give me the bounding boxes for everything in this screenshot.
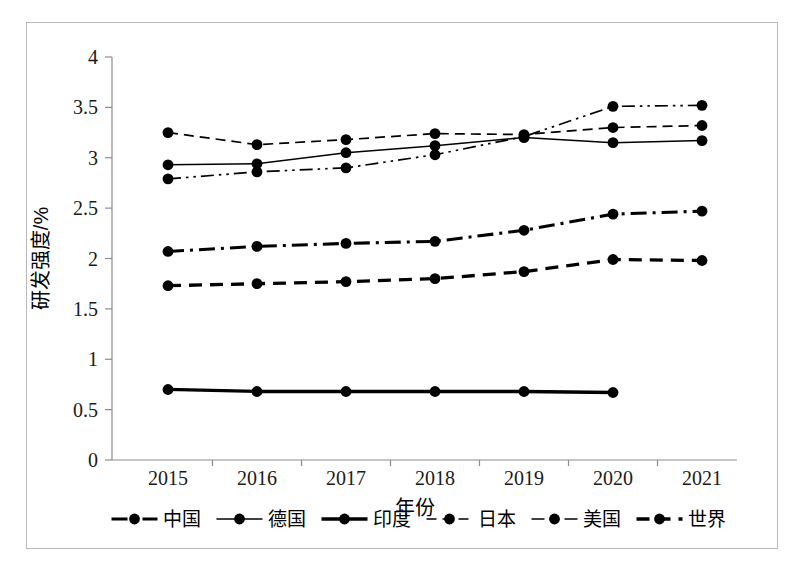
legend-marker [129,514,140,525]
data-point [341,238,352,249]
series-中国 [163,206,708,257]
y-tick-label: 2 [88,248,98,270]
legend-marker [339,514,350,525]
data-point [252,278,263,289]
data-point [608,101,619,112]
legend-item-印度[interactable]: 印度 [322,509,411,530]
legend-label: 印度 [373,509,411,530]
y-tick-label: 3.5 [73,96,98,118]
data-point [608,254,619,265]
x-axis-tick-labels: 2015201620172018201920202021 [148,467,722,489]
legend-label: 美国 [583,509,621,530]
data-point [519,225,530,236]
data-point [430,149,441,160]
legend-item-德国[interactable]: 德国 [217,509,306,530]
data-point [252,386,263,397]
line-chart: 00.511.522.533.54 2015201620172018201920… [0,0,808,573]
series-line [168,389,613,392]
data-point [430,236,441,247]
data-point [341,162,352,173]
y-axis-title: 研发强度/% [30,207,52,311]
data-point [608,209,619,220]
series-世界 [163,254,708,291]
x-tick-label: 2017 [326,467,366,489]
x-tick-label: 2021 [682,467,722,489]
data-point [430,386,441,397]
y-tick-label: 0.5 [73,399,98,421]
legend-label: 世界 [688,509,726,530]
data-point [519,131,530,142]
y-tick-label: 1.5 [73,298,98,320]
x-tick-label: 2020 [593,467,633,489]
y-tick-label: 4 [88,46,98,68]
data-point [430,128,441,139]
x-tick-label: 2018 [415,467,455,489]
series-印度 [163,384,619,398]
y-tick-label: 2.5 [73,197,98,219]
legend-marker [549,514,560,525]
legend-item-美国[interactable]: 美国 [532,509,621,530]
legend-marker [654,514,665,525]
data-point [341,276,352,287]
y-tick-label: 0 [88,449,98,471]
legend-label: 中国 [163,509,201,530]
data-point [341,386,352,397]
data-point [341,134,352,145]
data-point [252,139,263,150]
data-point [697,255,708,266]
data-point [608,122,619,133]
data-point [697,206,708,217]
data-point [163,246,174,257]
data-point [608,387,619,398]
y-axis-tick-labels: 00.511.522.533.54 [73,46,98,471]
data-point [608,137,619,148]
data-point [163,280,174,291]
data-point [519,386,530,397]
legend-item-中国[interactable]: 中国 [112,509,201,530]
data-point [519,266,530,277]
x-tick-label: 2019 [504,467,544,489]
y-axis-tick-marks [105,57,112,460]
x-tick-label: 2015 [148,467,188,489]
legend-marker [444,514,455,525]
legend-label: 日本 [478,509,516,530]
y-tick-label: 3 [88,147,98,169]
x-tick-label: 2016 [237,467,277,489]
data-point [163,127,174,138]
x-axis-tick-marks [213,460,658,466]
legend-item-世界[interactable]: 世界 [637,509,726,530]
data-point [252,166,263,177]
legend-marker [234,514,245,525]
legend-item-日本[interactable]: 日本 [427,509,516,530]
data-point [252,241,263,252]
legend-label: 德国 [268,509,306,530]
data-point [163,174,174,185]
data-point [697,120,708,131]
data-point [163,159,174,170]
y-tick-label: 1 [88,348,98,370]
chart-figure: 00.511.522.533.54 2015201620172018201920… [0,0,808,573]
series-group [163,100,708,398]
data-point [697,135,708,146]
data-point [341,147,352,158]
data-point [697,100,708,111]
data-point [163,384,174,395]
data-point [430,273,441,284]
